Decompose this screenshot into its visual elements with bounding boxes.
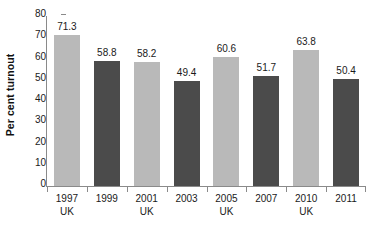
bar-group: 51.7 bbox=[246, 16, 286, 186]
bar bbox=[293, 50, 319, 186]
plot-area: 71.358.858.249.460.651.763.850.4 bbox=[47, 16, 366, 186]
x-axis-label-region: UK bbox=[207, 205, 247, 219]
x-axis-label-year: 2001 bbox=[127, 192, 167, 205]
y-tick-label: 50 bbox=[20, 72, 46, 84]
x-axis-label: 1997UK bbox=[47, 192, 87, 219]
x-axis-label: 2005UK bbox=[207, 192, 247, 219]
bar-chart: Per cent turnout 01020304050607080 71.35… bbox=[0, 0, 384, 230]
x-axis-label-year: 2005 bbox=[207, 192, 247, 205]
bar bbox=[94, 61, 120, 186]
bar-group: 58.8 bbox=[87, 16, 127, 186]
y-tick-label: 80 bbox=[20, 8, 46, 20]
x-axis-label: 1999 bbox=[87, 192, 127, 205]
x-axis-label-region: UK bbox=[127, 205, 167, 219]
y-tick-label: 60 bbox=[20, 51, 46, 63]
bar bbox=[253, 76, 279, 186]
bar-value-label: 60.6 bbox=[217, 43, 236, 54]
y-tick-label: 0 bbox=[20, 178, 46, 190]
x-axis-label: 2011 bbox=[326, 192, 366, 205]
bar-value-label: 58.2 bbox=[137, 48, 156, 59]
bar-value-label: 51.7 bbox=[257, 62, 276, 73]
y-tick-label: 10 bbox=[20, 157, 46, 169]
x-axis-label-year: 2011 bbox=[326, 192, 366, 205]
bar-group: 71.3 bbox=[47, 16, 87, 186]
y-axis-title: Per cent turnout bbox=[0, 0, 20, 190]
bar-value-label: 58.8 bbox=[97, 47, 116, 58]
x-axis-label: 2003 bbox=[167, 192, 207, 205]
bar bbox=[213, 57, 239, 186]
bar-value-label: 49.4 bbox=[177, 67, 196, 78]
y-tick-label: 30 bbox=[20, 114, 46, 126]
bar bbox=[54, 35, 80, 187]
bar-group: 49.4 bbox=[167, 16, 207, 186]
bar-group: 60.6 bbox=[207, 16, 247, 186]
bar bbox=[134, 62, 160, 186]
bar bbox=[174, 81, 200, 186]
y-tickmark bbox=[61, 14, 66, 15]
bar-group: 50.4 bbox=[326, 16, 366, 186]
x-axis-label-year: 2007 bbox=[246, 192, 286, 205]
x-axis-label: 2001UK bbox=[127, 192, 167, 219]
x-axis-label-year: 2010 bbox=[286, 192, 326, 205]
x-axis-label-year: 1999 bbox=[87, 192, 127, 205]
y-tick-label: 40 bbox=[20, 93, 46, 105]
x-axis-label: 2010UK bbox=[286, 192, 326, 219]
y-axis: 01020304050607080 bbox=[20, 12, 46, 187]
x-axis-label-year: 1997 bbox=[47, 192, 87, 205]
y-tick-label: 20 bbox=[20, 136, 46, 148]
bar-value-label: 63.8 bbox=[296, 36, 315, 47]
y-axis-title-text: Per cent turnout bbox=[4, 54, 16, 137]
bar-value-label: 71.3 bbox=[57, 21, 76, 32]
x-axis-label-region: UK bbox=[47, 205, 87, 219]
x-axis-label-region: UK bbox=[286, 205, 326, 219]
bar bbox=[333, 79, 359, 186]
y-tick-label: 70 bbox=[20, 29, 46, 41]
x-axis-labels: 1997UK19992001UK20032005UK20072010UK2011 bbox=[47, 192, 366, 228]
x-axis-label: 2007 bbox=[246, 192, 286, 205]
bar-group: 58.2 bbox=[127, 16, 167, 186]
bar-group: 63.8 bbox=[286, 16, 326, 186]
x-axis-label-year: 2003 bbox=[167, 192, 207, 205]
bar-value-label: 50.4 bbox=[336, 65, 355, 76]
